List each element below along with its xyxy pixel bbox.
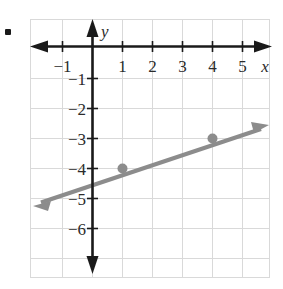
y-tick-label-neg3: −3 bbox=[68, 130, 86, 149]
x-tick-label-1: 1 bbox=[118, 57, 127, 76]
x-tick-label-2: 2 bbox=[148, 57, 157, 76]
y-tick-label-neg2: −2 bbox=[68, 100, 86, 119]
x-axis-label: x bbox=[260, 57, 269, 76]
y-tick-label-neg6: −6 bbox=[68, 220, 86, 239]
y-tick-label-neg5: −5 bbox=[68, 190, 86, 209]
y-axis-label: y bbox=[99, 22, 109, 41]
data-point-1-neg4 bbox=[118, 164, 128, 174]
x-tick-label-3: 3 bbox=[178, 57, 187, 76]
x-tick-label-4: 4 bbox=[208, 57, 217, 76]
coordinate-graph: −1 1 2 3 4 5 −1 −2 −3 −4 −5 −6 y x bbox=[0, 0, 283, 289]
data-point-4-neg3 bbox=[208, 134, 218, 144]
y-tick-label-neg4: −4 bbox=[68, 160, 87, 179]
y-tick-label-neg1: −1 bbox=[68, 70, 86, 89]
x-tick-label-5: 5 bbox=[238, 57, 247, 76]
coordinate-plane-figure: −1 1 2 3 4 5 −1 −2 −3 −4 −5 −6 y x bbox=[0, 0, 283, 289]
